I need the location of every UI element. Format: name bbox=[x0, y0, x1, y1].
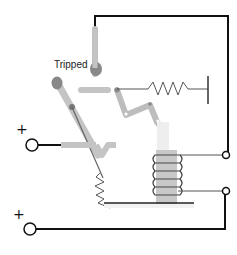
base-plate bbox=[104, 203, 194, 208]
input-terminal-top[interactable]: + bbox=[16, 121, 61, 151]
solenoid-plunger bbox=[157, 122, 169, 154]
plus-sign-top: + bbox=[16, 121, 28, 137]
coil-terminal-lower[interactable] bbox=[223, 188, 230, 195]
circuit-breaker-diagram: Tripped + bbox=[0, 0, 237, 255]
coil-terminals[interactable] bbox=[223, 152, 230, 195]
fixed-contact bbox=[90, 29, 102, 76]
solenoid-coil bbox=[153, 150, 224, 204]
state-label: Tripped bbox=[54, 59, 88, 70]
bottom-wire bbox=[36, 194, 225, 229]
plus-sign-bottom: + bbox=[13, 206, 25, 222]
coil-terminal-upper[interactable] bbox=[223, 152, 230, 159]
tension-spring bbox=[117, 76, 208, 104]
contact-bar bbox=[61, 145, 116, 155]
input-terminal-bottom[interactable]: + bbox=[13, 206, 36, 235]
